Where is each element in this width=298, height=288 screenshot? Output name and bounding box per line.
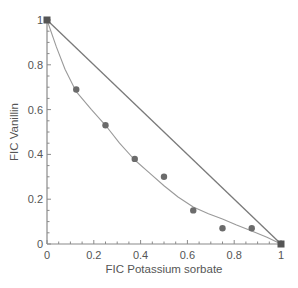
y-axis-title: FIC Vanillin (8, 103, 20, 161)
x-tick-label: 0 (44, 249, 50, 261)
endpoint-marker (278, 241, 285, 248)
data-point (161, 174, 167, 180)
data-point (73, 86, 79, 92)
endpoint-marker (44, 17, 51, 24)
data-point (249, 225, 255, 231)
y-tick-label: 0.8 (28, 59, 43, 71)
tick-labels: 00.20.40.60.8100.20.40.60.81 (28, 14, 284, 261)
x-tick-label: 0.6 (180, 249, 195, 261)
data-point (132, 156, 138, 162)
data-point (219, 225, 225, 231)
additivity-line (47, 20, 281, 244)
y-tick-label: 0.2 (28, 193, 43, 205)
x-tick-label: 0.2 (86, 249, 101, 261)
x-tick-label: 1 (278, 249, 284, 261)
y-tick-label: 0.6 (28, 104, 43, 116)
y-tick-label: 0.4 (28, 148, 43, 160)
y-tick-label: 1 (37, 14, 43, 26)
data-point (102, 122, 108, 128)
y-tick-label: 0 (37, 238, 43, 250)
x-axis-title: FIC Potassium sorbate (106, 263, 223, 275)
x-tick-label: 0.8 (227, 249, 242, 261)
series-lines (47, 20, 281, 244)
data-point (190, 207, 196, 213)
isobologram-chart: 00.20.40.60.8100.20.40.60.81 FIC Potassi… (0, 0, 298, 288)
x-tick-label: 0.4 (133, 249, 148, 261)
